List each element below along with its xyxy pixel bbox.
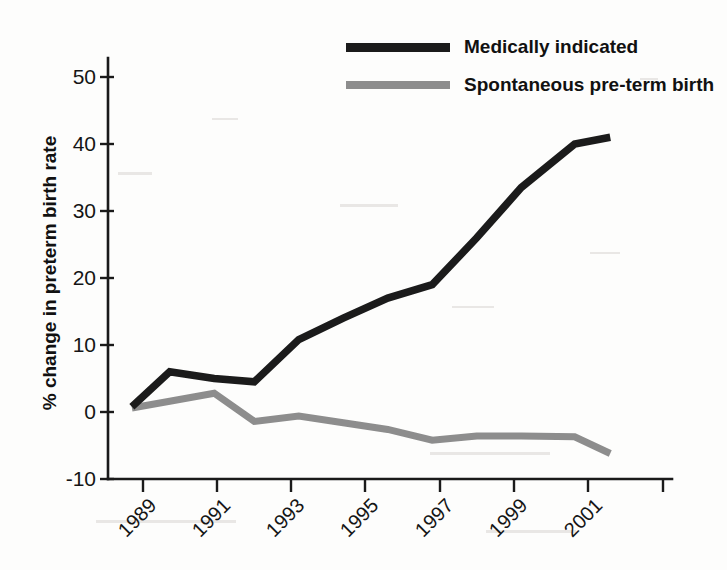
series-line-medically-indicated (132, 137, 610, 406)
x-axis-ticks (143, 479, 663, 492)
series-line-spontaneous-pre-term-birth (132, 393, 610, 453)
chart-figure: Medically indicated Spontaneous pre-term… (0, 0, 727, 570)
plot-area (0, 0, 727, 570)
